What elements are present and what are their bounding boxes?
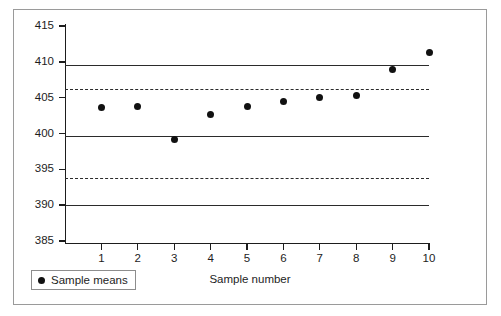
y-tick-label: 390 [20, 199, 54, 211]
y-tick-label: 400 [20, 128, 54, 140]
y-tick-label: 385 [20, 235, 54, 247]
lower-control-limit-line [65, 205, 429, 206]
plot-area: 385390395400405410415 12345678910 [0, 0, 501, 316]
x-tick-label: 3 [159, 252, 189, 265]
data-point [134, 103, 141, 110]
x-tick-mark [174, 243, 175, 250]
x-tick-mark [428, 243, 429, 250]
lower-warning-limit-line [65, 178, 429, 179]
upper-control-limit-line [65, 65, 429, 66]
y-tick-label: 395 [20, 163, 54, 175]
lower-warning-upper-band-line [65, 136, 429, 137]
data-point [280, 98, 287, 105]
y-tick-mark [59, 204, 66, 205]
x-tick-mark [356, 243, 357, 250]
x-axis-title: Sample number [150, 272, 350, 286]
legend-label: Sample means [51, 274, 128, 286]
x-tick-label: 1 [86, 252, 116, 265]
y-tick-label: 410 [20, 56, 54, 68]
x-tick-label: 2 [123, 252, 153, 265]
y-tick-mark [59, 61, 66, 62]
control-chart-figure: 385390395400405410415 12345678910 Sample… [0, 0, 501, 316]
x-tick-mark [210, 243, 211, 250]
data-point [98, 104, 105, 111]
x-tick-mark [101, 243, 102, 250]
x-tick-mark [392, 243, 393, 250]
x-tick-label: 8 [341, 252, 371, 265]
data-point [426, 49, 433, 56]
y-tick-label: 405 [20, 92, 54, 104]
y-tick-mark [59, 240, 66, 241]
data-point [171, 136, 178, 143]
y-tick-label: 415 [20, 20, 54, 32]
y-tick-mark [59, 133, 66, 134]
y-tick-mark [59, 97, 66, 98]
upper-warning-limit-line [65, 89, 429, 90]
y-tick-mark [59, 25, 66, 26]
x-tick-label: 10 [414, 252, 444, 265]
x-tick-label: 9 [378, 252, 408, 265]
x-tick-mark [246, 243, 247, 250]
x-tick-label: 6 [268, 252, 298, 265]
x-tick-mark [137, 243, 138, 250]
sample-means-marker-icon [38, 277, 45, 284]
x-tick-label: 4 [196, 252, 226, 265]
data-point [244, 103, 251, 110]
data-point [207, 111, 214, 118]
data-point [389, 66, 396, 73]
data-point [316, 94, 323, 101]
x-tick-label: 7 [305, 252, 335, 265]
x-tick-mark [319, 243, 320, 250]
y-tick-mark [59, 169, 66, 170]
x-tick-label: 5 [232, 252, 262, 265]
data-point [353, 92, 360, 99]
x-tick-mark [283, 243, 284, 250]
legend[interactable]: Sample means [31, 270, 136, 290]
